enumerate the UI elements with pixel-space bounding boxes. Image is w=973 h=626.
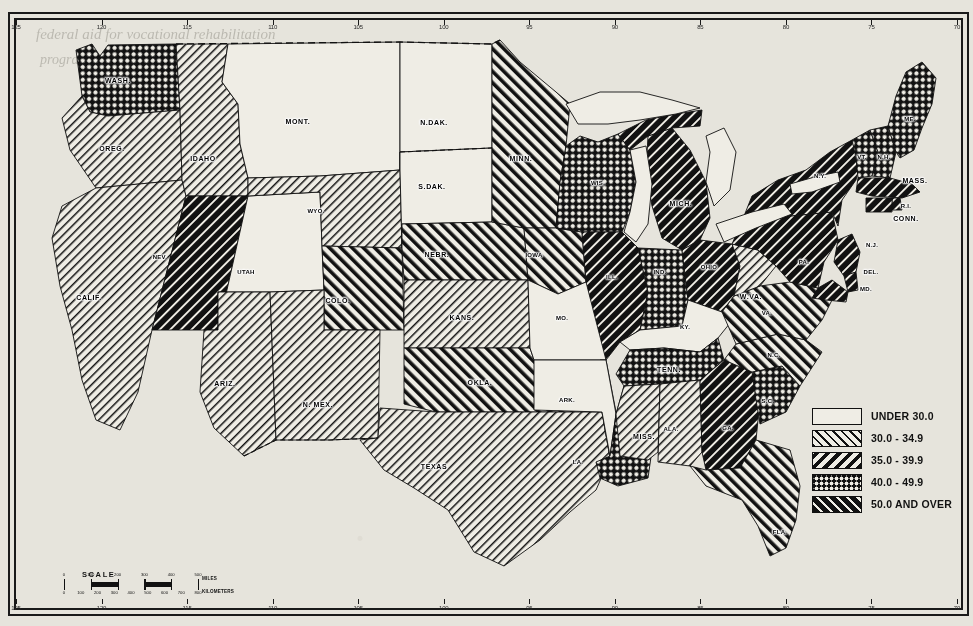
state-michigan-lp <box>646 128 710 250</box>
scale-tick-miles <box>144 579 145 590</box>
scale-unit-kilometers: KILOMETERS <box>202 589 234 594</box>
state-label-ark: ARK. <box>559 397 575 403</box>
state-label-ga: GA. <box>722 425 734 431</box>
state-label-conn: CONN. <box>893 215 919 222</box>
state-label-nh: N.H. <box>877 154 890 160</box>
state-label-kans: KANS. <box>450 314 475 321</box>
scale-number-kilometers: 100 <box>77 590 84 595</box>
scale-number-kilometers: 200 <box>94 590 101 595</box>
state-label-wyo: WYO. <box>307 208 324 214</box>
us-choropleth-map <box>0 0 973 626</box>
state-label-tenn: TENN. <box>657 366 681 373</box>
scale-number-kilometers: 300 <box>111 590 118 595</box>
state-label-mich: MICH. <box>670 200 693 207</box>
state-label-mont: MONT. <box>286 118 311 125</box>
state-label-ill: ILL. <box>606 274 618 280</box>
scale-number-miles: 500 <box>195 572 202 577</box>
scale-tick-miles <box>198 579 199 590</box>
state-label-utah: UTAH <box>237 269 254 275</box>
scale-number-kilometers: 0 <box>63 590 65 595</box>
scale-segment <box>144 582 171 587</box>
state-label-nebr: NEBR. <box>425 251 450 258</box>
state-delaware <box>844 272 858 292</box>
scale-bar: SCALE MILES KILOMETERS 01002003004005000… <box>60 570 198 588</box>
scale-number-miles: 100 <box>87 572 94 577</box>
state-label-md: MD. <box>860 286 872 292</box>
state-label-nev: NEV. <box>153 254 168 260</box>
scale-bar-miles: MILES KILOMETERS 01002003004005000100200… <box>64 582 198 588</box>
state-alabama <box>658 380 702 466</box>
state-label-okla: OKLA. <box>468 379 493 386</box>
state-label-oreg: OREG. <box>99 145 125 152</box>
lake-huron <box>706 128 736 206</box>
scale-number-miles: 0 <box>63 572 65 577</box>
state-label-del: DEL. <box>864 269 879 275</box>
scale-tick-miles <box>171 579 172 590</box>
map-page: federal aid for vocational rehabilitatio… <box>0 0 973 626</box>
state-label-nj: N.J. <box>866 242 878 248</box>
state-label-ndak: N.DAK. <box>420 119 448 126</box>
legend-row: 50.0 AND OVER <box>812 494 952 514</box>
state-label-miss: MISS. <box>633 433 655 440</box>
state-label-calif: CALIF. <box>76 294 101 301</box>
state-label-idaho: IDAHO <box>190 155 216 162</box>
scale-number-kilometers: 500 <box>144 590 151 595</box>
scale-tick-miles <box>118 579 119 590</box>
scale-number-kilometers: 400 <box>128 590 135 595</box>
scale-number-miles: 200 <box>114 572 121 577</box>
state-label-minn: MINN. <box>510 155 533 162</box>
legend-row: 30.0 - 34.9 <box>812 428 952 448</box>
state-maine <box>888 62 936 158</box>
scale-number-kilometers: 700 <box>178 590 185 595</box>
state-label-ala: ALA. <box>663 426 678 432</box>
scale-number-kilometers: 800 <box>195 590 202 595</box>
legend-swatch-bold-hatch-left <box>812 452 862 469</box>
scale-number-miles: 400 <box>168 572 175 577</box>
legend-label: 35.0 - 39.9 <box>871 454 923 466</box>
state-label-ky: KY. <box>680 324 690 330</box>
scale-tick-miles <box>91 579 92 590</box>
state-label-vt: VT. <box>857 154 867 160</box>
state-label-ariz: ARIZ. <box>214 380 235 387</box>
scale-segment <box>91 582 118 587</box>
legend-label: UNDER 30.0 <box>871 410 934 422</box>
state-label-me: ME. <box>904 116 916 122</box>
state-label-mo: MO. <box>556 315 568 321</box>
legend-swatch-solid-black-hatch <box>812 496 862 513</box>
state-montana <box>222 42 400 178</box>
state-texas <box>360 408 610 566</box>
state-label-sdak: S.DAK. <box>418 183 445 190</box>
state-label-va: VA. <box>762 310 772 316</box>
legend-label: 40.0 - 49.9 <box>871 476 923 488</box>
state-new-jersey <box>834 234 860 276</box>
legend-swatch-cross-hatch <box>812 474 862 491</box>
state-label-wis: WIS. <box>591 180 605 186</box>
scale-number-kilometers: 600 <box>161 590 168 595</box>
legend-swatch-solid-white <box>812 408 862 425</box>
state-label-nc: N.C. <box>767 352 780 358</box>
state-label-ohio: OHIO <box>701 264 718 270</box>
state-label-colo: COLO. <box>325 297 350 304</box>
state-nebraska <box>402 222 528 280</box>
legend-label: 30.0 - 34.9 <box>871 432 923 444</box>
state-label-wva: W.VA. <box>740 293 762 300</box>
state-label-wash: WASH. <box>105 77 131 84</box>
state-label-ny: N.Y. <box>814 173 826 179</box>
state-colorado <box>322 246 404 330</box>
state-mississippi-body <box>616 384 660 460</box>
state-label-fla: FLA. <box>773 529 788 535</box>
state-label-mass: MASS. <box>902 177 927 184</box>
state-label-nmex: N. MEX. <box>303 401 333 408</box>
state-label-la: LA. <box>573 459 584 465</box>
state-label-sc: S.C. <box>762 398 775 404</box>
legend-label: 50.0 AND OVER <box>871 498 952 510</box>
map-legend: UNDER 30.030.0 - 34.935.0 - 39.940.0 - 4… <box>812 406 952 516</box>
legend-swatch-thin-hatch-right <box>812 430 862 447</box>
legend-row: UNDER 30.0 <box>812 406 952 426</box>
scale-tick-miles <box>64 579 65 590</box>
state-label-ind: IND. <box>653 269 666 275</box>
scale-unit-miles: MILES <box>202 576 217 581</box>
scale-number-miles: 300 <box>141 572 148 577</box>
legend-row: 35.0 - 39.9 <box>812 450 952 470</box>
state-label-texas: TEXAS <box>421 463 447 470</box>
